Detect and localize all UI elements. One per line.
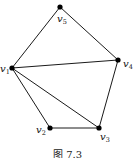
edge-v5-v4 bbox=[60, 7, 118, 60]
node-v3 bbox=[96, 125, 101, 130]
edge-v1-v4 bbox=[12, 60, 118, 68]
node-v1 bbox=[9, 65, 14, 70]
label-v4: v4 bbox=[123, 58, 133, 71]
label-v3: v3 bbox=[100, 131, 110, 144]
node-v5 bbox=[57, 4, 62, 9]
graph-diagram: v1v2v3v4v5 bbox=[0, 0, 135, 158]
edge-v1-v3 bbox=[12, 68, 99, 128]
label-v2: v2 bbox=[36, 124, 46, 137]
edge-v1-v2 bbox=[12, 68, 50, 128]
edge-v5-v1 bbox=[12, 7, 60, 68]
figure-caption: 图 7.3 bbox=[0, 146, 135, 158]
label-v1: v1 bbox=[0, 63, 10, 76]
node-v2 bbox=[47, 125, 52, 130]
edge-v4-v3 bbox=[99, 60, 118, 128]
label-v5: v5 bbox=[57, 13, 67, 26]
node-v4 bbox=[115, 57, 120, 62]
